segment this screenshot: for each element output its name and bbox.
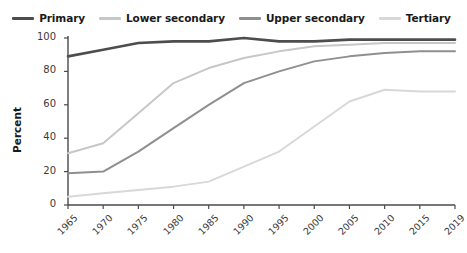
line-swatch-icon <box>99 17 121 20</box>
legend-item[interactable]: Tertiary <box>379 12 451 24</box>
y-axis-tick-label: 40 <box>30 131 56 142</box>
legend-item[interactable]: Lower secondary <box>99 12 225 24</box>
series-line <box>68 51 455 173</box>
legend-item-label: Upper secondary <box>266 12 365 24</box>
y-axis-tick-label: 80 <box>30 64 56 75</box>
legend-item-label: Lower secondary <box>126 12 225 24</box>
line-swatch-icon <box>12 17 34 20</box>
y-axis-tick-label: 100 <box>30 31 56 42</box>
series-line <box>68 43 455 153</box>
plot-area: Percent 02040608010019651970197519801985… <box>0 28 463 253</box>
chart-legend: PrimaryLower secondaryUpper secondaryTer… <box>0 9 463 27</box>
line-swatch-icon <box>379 17 401 20</box>
legend-item[interactable]: Upper secondary <box>239 12 365 24</box>
legend-item[interactable]: Primary <box>12 12 85 24</box>
y-axis-tick-label: 0 <box>30 198 56 209</box>
series-line <box>68 90 455 197</box>
legend-item-label: Primary <box>39 12 85 24</box>
line-swatch-icon <box>239 17 261 20</box>
y-axis-tick-label: 20 <box>30 165 56 176</box>
series-line <box>68 38 455 56</box>
legend-item-label: Tertiary <box>406 12 451 24</box>
y-axis-tick-label: 60 <box>30 98 56 109</box>
